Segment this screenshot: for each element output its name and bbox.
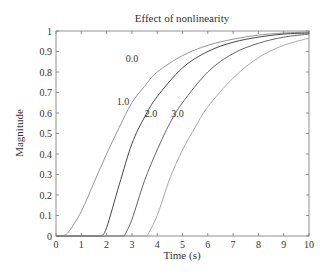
series-label: 1.0	[117, 96, 130, 107]
x-axis: 012345678910	[54, 31, 315, 250]
series-label: 0.0	[126, 53, 139, 64]
y-axis-label: Magnitude	[13, 109, 25, 157]
x-tick-label: 2	[104, 239, 109, 250]
x-tick-label: 4	[155, 239, 160, 250]
x-tick-label: 0	[54, 239, 59, 250]
series-line-1.0	[56, 33, 309, 236]
chart-title: Effect of nonlinearity	[135, 12, 230, 24]
y-tick-label: 0.6	[40, 108, 53, 119]
y-tick-label: 0.2	[40, 190, 53, 201]
series-labels: 0.01.02.03.0	[117, 53, 184, 119]
x-tick-label: 9	[281, 239, 286, 250]
y-tick-label: 0.1	[40, 210, 53, 221]
y-tick-label: 1	[47, 26, 52, 37]
y-tick-label: 0	[47, 231, 52, 242]
x-tick-label: 6	[205, 239, 210, 250]
series-label: 3.0	[171, 108, 184, 119]
series-lines	[56, 32, 309, 236]
y-tick-label: 0.3	[40, 169, 53, 180]
series-line-2.0	[56, 34, 309, 236]
x-tick-label: 3	[129, 239, 134, 250]
series-label: 2.0	[145, 108, 158, 119]
y-tick-label: 0.7	[40, 87, 53, 98]
plot-area	[56, 31, 309, 236]
x-tick-label: 8	[256, 239, 261, 250]
x-tick-label: 7	[231, 239, 236, 250]
x-tick-label: 1	[79, 239, 84, 250]
y-axis: 00.10.20.30.40.50.60.70.80.91	[40, 26, 310, 242]
y-tick-label: 0.5	[40, 128, 53, 139]
line-chart: Effect of nonlinearity 012345678910 00.1…	[0, 0, 329, 275]
y-tick-label: 0.8	[40, 67, 53, 78]
y-tick-label: 0.4	[40, 149, 53, 160]
x-tick-label: 10	[304, 239, 314, 250]
series-line-0.0	[56, 32, 309, 236]
y-tick-label: 0.9	[40, 46, 53, 57]
x-axis-label: Time (s)	[163, 249, 201, 262]
